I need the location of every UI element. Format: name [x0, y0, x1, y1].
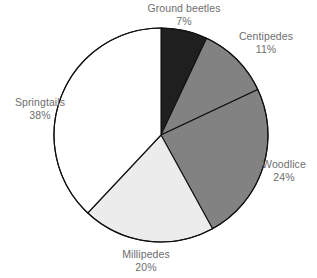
slice-label-value: 7% — [118, 15, 250, 28]
slice-label-millipedes: Millipedes 20% — [94, 248, 198, 273]
slice-label-value: 11% — [216, 43, 316, 56]
slice-label-name: Millipedes — [94, 248, 198, 261]
slice-label-value: 24% — [252, 171, 316, 184]
slice-label-name: Springtails — [2, 96, 78, 109]
slice-label-name: Centipedes — [216, 30, 316, 43]
slice-label-springtails: Springtails 38% — [2, 96, 78, 121]
slice-label-name: Woodlice — [252, 158, 316, 171]
slice-label-name: Ground beetles — [118, 2, 250, 15]
slice-label-value: 20% — [94, 261, 198, 274]
pie-slices-group — [54, 28, 268, 242]
slice-label-centipedes: Centipedes 11% — [216, 30, 316, 55]
slice-label-ground-beetles: Ground beetles 7% — [118, 2, 250, 27]
slice-label-value: 38% — [2, 109, 78, 122]
slice-label-woodlice: Woodlice 24% — [252, 158, 316, 183]
pie-chart: Ground beetles 7% Centipedes 11% Woodlic… — [0, 0, 317, 278]
